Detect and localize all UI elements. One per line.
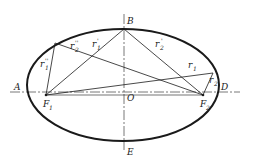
label-o: O [127,93,135,103]
svg-text:2: 2 [205,104,210,111]
svg-text:2: 2 [159,44,164,51]
label-b: B [126,16,134,26]
svg-text:1: 1 [45,64,49,71]
label-r1-double-prime: r 1 '' [40,57,49,71]
svg-text:': ' [97,37,99,44]
label-e: E [126,147,134,157]
svg-text:1: 1 [97,44,101,51]
label-r1: r 1 [188,60,197,72]
label-d: D [220,82,228,92]
svg-text:2: 2 [213,80,218,87]
label-r1-prime: r 1 ' [92,37,101,51]
svg-text:2: 2 [74,46,79,53]
svg-text:'': '' [75,39,79,46]
label-r2-double-prime: r 2 '' [70,39,79,53]
focus-f2-point [202,94,205,97]
radius-r1-prime [46,29,124,95]
label-f1: F 1 [42,99,53,111]
ellipse-diagram: A B D E O F 1 F 2 r 1 '' r 2 '' r 1 ' r … [0,0,260,159]
label-a: A [13,82,21,92]
label-r2-prime: r 2 ' [155,37,164,51]
label-f2: F 2 [199,99,210,111]
svg-text:1: 1 [49,104,53,111]
svg-text:': ' [161,37,163,44]
focus-f1-point [45,94,48,97]
label-r2: r 2 [209,75,218,87]
svg-text:'': '' [45,57,49,64]
svg-text:1: 1 [193,65,197,72]
